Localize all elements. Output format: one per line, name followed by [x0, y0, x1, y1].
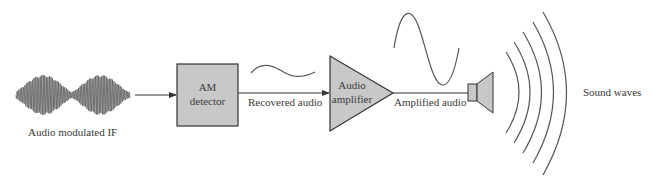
sound-waves-icon: [506, 12, 567, 175]
audio-amplifier-line2: amplifier: [327, 92, 377, 106]
am-detector-line2: detector: [177, 94, 238, 108]
input-signal-label: Audio modulated IF: [28, 126, 117, 138]
am-modulated-waveform-icon: [16, 75, 130, 115]
recovered-audio-label: Recovered audio: [248, 96, 322, 108]
large-sine-wave-icon: [394, 13, 459, 85]
speaker-icon: [468, 72, 493, 113]
audio-amplifier-label: Audio amplifier: [327, 78, 377, 106]
amplified-audio-label: Amplified audio: [394, 96, 466, 108]
am-detector-label: AM detector: [177, 80, 238, 108]
audio-amplifier-line1: Audio: [327, 78, 377, 92]
small-sine-wave-icon: [251, 65, 315, 76]
sound-waves-label: Sound waves: [583, 86, 641, 98]
am-detector-line1: AM: [177, 80, 238, 94]
